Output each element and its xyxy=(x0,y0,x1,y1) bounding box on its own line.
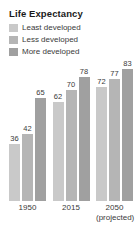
bar-group-2015: 62 70 78 xyxy=(53,58,90,201)
category-label-text: 2015 xyxy=(62,203,80,212)
bar xyxy=(53,102,64,201)
bar-value-label: 77 xyxy=(110,70,118,78)
bar xyxy=(35,98,46,201)
bar xyxy=(122,69,133,201)
category-label-text: 2050 xyxy=(106,203,124,212)
bar xyxy=(96,87,107,201)
bar xyxy=(22,134,33,201)
bar-value-label: 42 xyxy=(23,125,31,133)
bar xyxy=(109,79,120,201)
chart-title: Life Expectancy xyxy=(9,8,83,19)
bar-value-label: 70 xyxy=(67,81,75,89)
bar-value-label: 65 xyxy=(36,89,44,97)
legend-swatch-icon xyxy=(9,36,18,44)
legend-item-less-developed: Less developed xyxy=(9,34,129,45)
category-label-2050: 2050 (projected) xyxy=(96,203,133,223)
bar-group-1950: 36 42 65 xyxy=(9,58,46,201)
legend-label: Less developed xyxy=(22,35,78,44)
bar-value-label: 78 xyxy=(80,68,88,76)
category-axis: 1950 2015 2050 (projected) xyxy=(9,203,133,231)
category-label-2015: 2015 xyxy=(53,203,90,213)
legend-swatch-icon xyxy=(9,24,18,32)
bar-value-label: 36 xyxy=(10,135,18,143)
chart-legend: Least developed Less developed More deve… xyxy=(9,22,129,58)
category-sublabel-text: (projected) xyxy=(96,213,133,223)
plot-area: 36 42 65 62 70 78 xyxy=(9,58,133,201)
legend-label: More developed xyxy=(22,47,79,56)
legend-label: Least developed xyxy=(22,23,81,32)
bar-group-2050: 72 77 83 xyxy=(96,58,133,201)
bar xyxy=(79,77,90,201)
legend-item-least-developed: Least developed xyxy=(9,22,129,33)
bar-value-label: 62 xyxy=(54,93,62,101)
life-expectancy-bar-chart: Life Expectancy Least developed Less dev… xyxy=(0,0,139,234)
bar xyxy=(66,90,77,201)
category-label-text: 1950 xyxy=(19,203,37,212)
legend-swatch-icon xyxy=(9,48,18,56)
legend-item-more-developed: More developed xyxy=(9,46,129,57)
bar xyxy=(9,144,20,201)
category-label-1950: 1950 xyxy=(9,203,46,213)
bar-value-label: 83 xyxy=(123,60,131,68)
bar-value-label: 72 xyxy=(97,78,105,86)
